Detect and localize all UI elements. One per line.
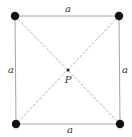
label-center-p: P — [64, 74, 72, 85]
vertex-bottom-left — [12, 120, 20, 128]
side-left — [15, 16, 16, 124]
vertex-bottom-right — [116, 120, 124, 128]
vertex-top-left — [11, 12, 19, 20]
center-point — [67, 69, 70, 72]
label-left-side: a — [8, 64, 14, 75]
vertex-top-right — [115, 12, 123, 20]
side-right — [119, 16, 120, 124]
square-diagram: a a a a P — [0, 0, 132, 137]
label-right-side: a — [122, 64, 128, 75]
label-top-side: a — [65, 3, 71, 14]
label-bottom-side: a — [67, 124, 73, 135]
